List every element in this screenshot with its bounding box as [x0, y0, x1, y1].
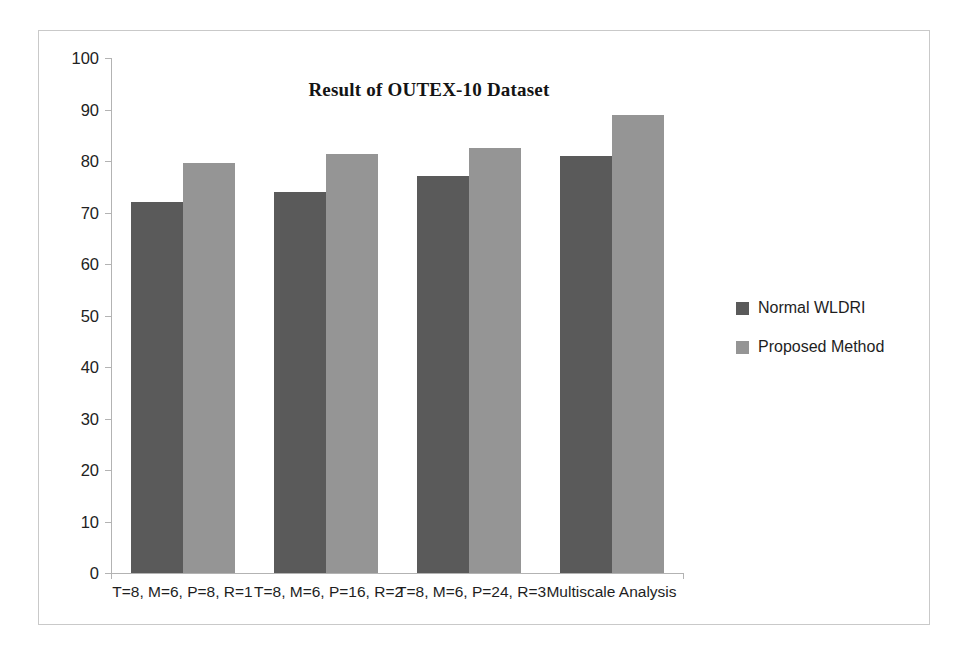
- y-axis-tick-label: 0: [37, 565, 99, 582]
- bar-group: [417, 58, 521, 573]
- legend-item[interactable]: Normal WLDRI: [736, 299, 921, 317]
- y-axis-tick-label: 40: [37, 359, 99, 376]
- legend-swatch-icon: [736, 341, 749, 354]
- legend-item[interactable]: Proposed Method: [736, 338, 921, 356]
- y-axis-tick-label: 70: [37, 204, 99, 221]
- chart-frame: Result of OUTEX-10 Dataset 1009080706050…: [38, 30, 930, 625]
- y-axis-tick-label: 100: [37, 50, 99, 67]
- bar-group: [131, 58, 235, 573]
- x-axis-tick: [683, 573, 684, 579]
- y-axis-tick-label: 60: [37, 256, 99, 273]
- x-axis-label: Multiscale Analysis: [540, 583, 683, 601]
- x-axis-line: [111, 573, 683, 574]
- y-axis-tick-label: 20: [37, 462, 99, 479]
- y-axis-tick-label: 90: [37, 101, 99, 118]
- plot-area: [111, 58, 681, 573]
- y-axis-tick-label: 30: [37, 410, 99, 427]
- chart-legend: Normal WLDRIProposed Method: [736, 299, 921, 377]
- bar[interactable]: [417, 176, 469, 573]
- x-axis-label: T=8, M=6, P=16, R=2: [254, 583, 397, 601]
- bar[interactable]: [183, 163, 235, 573]
- legend-item-label: Proposed Method: [758, 338, 884, 356]
- y-axis-tick-label: 10: [37, 513, 99, 530]
- bar-group: [560, 58, 664, 573]
- x-axis-label: T=8, M=6, P=24, R=3: [397, 583, 540, 601]
- bar[interactable]: [274, 192, 326, 573]
- legend-item-label: Normal WLDRI: [758, 299, 866, 317]
- bar[interactable]: [612, 115, 664, 573]
- x-axis-label: T=8, M=6, P=8, R=1: [111, 583, 254, 601]
- bar[interactable]: [131, 202, 183, 573]
- bar[interactable]: [326, 154, 378, 573]
- bar[interactable]: [469, 148, 521, 573]
- y-axis-tick-label: 80: [37, 153, 99, 170]
- legend-swatch-icon: [736, 302, 749, 315]
- y-axis-tick-label: 50: [37, 307, 99, 324]
- bar-group: [274, 58, 378, 573]
- x-axis-tick: [111, 573, 112, 579]
- bar[interactable]: [560, 156, 612, 573]
